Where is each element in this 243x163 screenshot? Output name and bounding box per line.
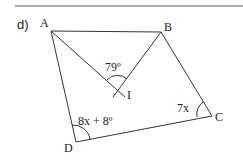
vertex-label-c: C — [215, 110, 223, 124]
angle-label-d: 8x + 8º — [78, 114, 113, 128]
angle-arc-i — [107, 75, 127, 80]
vertex-label-d: D — [64, 141, 73, 155]
angle-label-i: 79º — [105, 60, 121, 74]
angle-arc-c — [197, 102, 203, 117]
vertex-label-a: A — [40, 16, 49, 30]
quadrilateral-diagram: d) A B C D I 79º 8x + 8º 7x — [0, 0, 243, 163]
part-label: d) — [17, 17, 29, 32]
vertex-label-b: B — [164, 20, 172, 34]
angle-label-c: 7x — [177, 101, 189, 115]
point-label-i: I — [127, 88, 131, 102]
side-ab — [51, 31, 161, 32]
